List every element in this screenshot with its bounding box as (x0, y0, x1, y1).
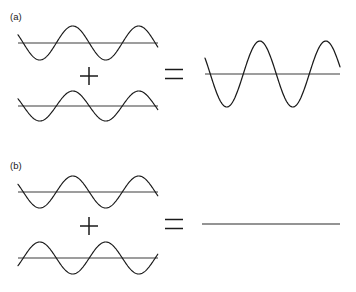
equals-operator-b (165, 220, 183, 229)
wave-interference-figure: (a)(b) (0, 0, 356, 292)
panel-label-b: (b) (10, 160, 22, 171)
equals-operator-a (165, 70, 183, 79)
panel-a: (a) (10, 11, 340, 121)
panel-b: (b) (10, 160, 340, 274)
plus-operator-a (80, 67, 98, 85)
panel-label-a: (a) (10, 11, 22, 22)
figure-canvas: (a)(b) (0, 0, 356, 292)
plus-operator-b (80, 217, 98, 235)
